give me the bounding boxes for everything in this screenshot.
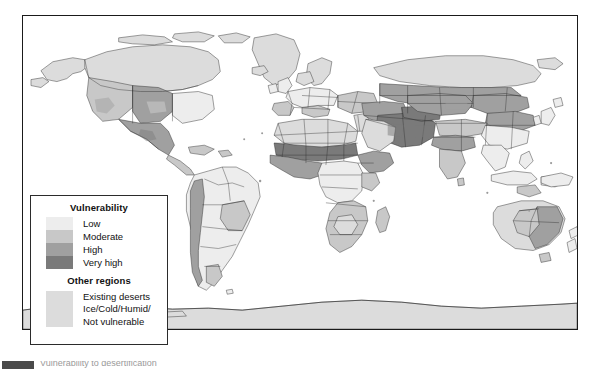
legend-swatch-high xyxy=(46,243,73,256)
legend-swatch-other-regions xyxy=(46,291,73,327)
legend-title: Vulnerability xyxy=(31,203,167,213)
legend-label-low: Low xyxy=(83,217,100,230)
figure-caption-text: Vulnerability to desertification xyxy=(40,361,157,368)
desertification-vulnerability-figure: .lo { fill:#ededed; stroke:#2b2b2b; stro… xyxy=(0,0,599,370)
legend-other-title: Other regions xyxy=(31,276,167,286)
legend-other-line1: Existing deserts xyxy=(83,291,150,302)
legend-vulnerability-swatches: Low Moderate High Very high xyxy=(46,217,167,269)
legend-item-other-regions: Existing deserts Ice/Cold/Humid/ Not vul… xyxy=(46,291,167,329)
legend-item-high: High xyxy=(46,243,167,256)
legend-swatch-moderate xyxy=(46,230,73,243)
legend-label-moderate: Moderate xyxy=(83,230,123,243)
figure-caption-badge xyxy=(2,361,34,369)
legend-swatch-very-high xyxy=(46,256,73,269)
figure-caption-strip: Vulnerability to desertification xyxy=(0,361,599,370)
legend-other-labels: Existing deserts Ice/Cold/Humid/ Not vul… xyxy=(83,291,151,329)
legend-item-low: Low xyxy=(46,217,167,230)
legend-item-moderate: Moderate xyxy=(46,230,167,243)
legend-other-line2: Ice/Cold/Humid/ xyxy=(83,303,151,314)
legend-label-very-high: Very high xyxy=(83,256,123,269)
legend-item-very-high: Very high xyxy=(46,256,167,269)
map-legend: Vulnerability Low Moderate High Very hig… xyxy=(30,195,168,345)
legend-label-high: High xyxy=(83,243,103,256)
legend-other-line3: Not vulnerable xyxy=(83,316,144,327)
legend-swatch-low xyxy=(46,217,73,230)
